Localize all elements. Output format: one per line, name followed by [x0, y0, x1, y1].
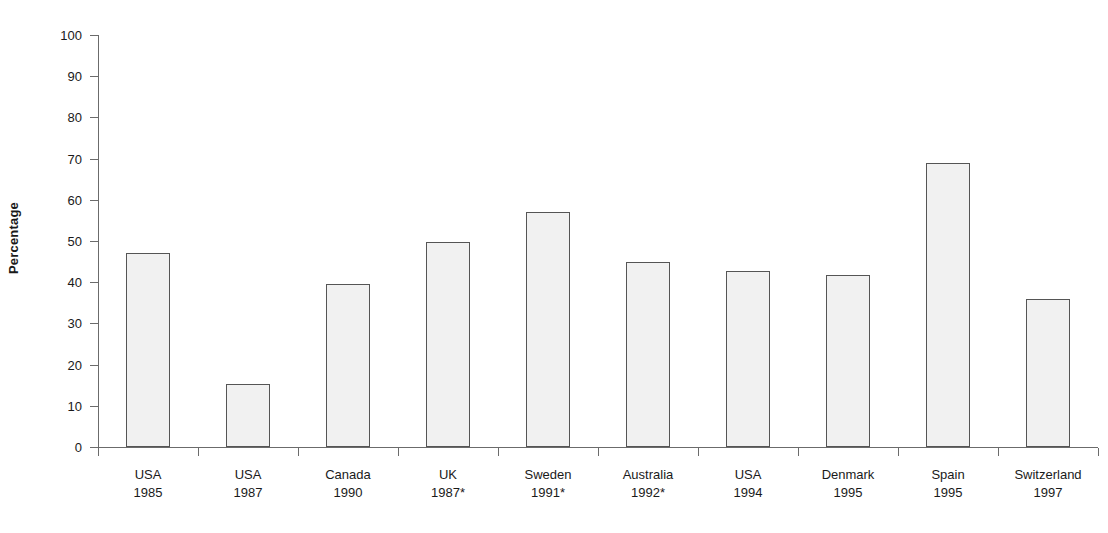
y-axis-tick — [90, 76, 98, 77]
y-axis-label: 40 — [36, 276, 82, 289]
y-axis-label: 100 — [36, 29, 82, 42]
x-axis-label-year: 1992* — [598, 484, 698, 502]
y-axis-tick — [90, 365, 98, 366]
x-axis-label-year: 1997 — [998, 484, 1098, 502]
x-axis-tick — [1098, 448, 1099, 456]
x-axis-label-year: 1985 — [98, 484, 198, 502]
x-axis-label: Denmark1995 — [798, 466, 898, 502]
y-axis-label: 70 — [36, 153, 82, 166]
x-axis-label: Australia1992* — [598, 466, 698, 502]
x-axis-tick — [598, 448, 599, 456]
y-axis-tick — [90, 117, 98, 118]
bar — [926, 163, 970, 447]
x-axis-label-country: Australia — [598, 466, 698, 484]
x-axis-tick — [798, 448, 799, 456]
x-axis-label-country: USA — [198, 466, 298, 484]
x-axis-label-year: 1991* — [498, 484, 598, 502]
x-axis-label-country: UK — [398, 466, 498, 484]
x-axis-label-year: 1994 — [698, 484, 798, 502]
y-axis-tick — [90, 447, 98, 448]
x-axis-label: Canada1990 — [298, 466, 398, 502]
x-axis-label-country: Denmark — [798, 466, 898, 484]
y-axis-label: 80 — [36, 111, 82, 124]
y-axis-tick — [90, 241, 98, 242]
x-axis-tick — [498, 448, 499, 456]
x-axis-label: Sweden1991* — [498, 466, 598, 502]
x-axis-tick — [698, 448, 699, 456]
bar — [426, 242, 470, 447]
bar — [226, 384, 270, 447]
bar — [726, 271, 770, 447]
x-axis-tick — [198, 448, 199, 456]
bar — [1026, 299, 1070, 447]
y-axis-label: 10 — [36, 400, 82, 413]
x-axis-tick — [98, 448, 99, 456]
x-axis-label-year: 1990 — [298, 484, 398, 502]
y-axis-label: 0 — [36, 441, 82, 454]
bar — [126, 253, 170, 447]
y-axis-label: 20 — [36, 359, 82, 372]
bar — [826, 275, 870, 447]
y-axis-label: 60 — [36, 194, 82, 207]
y-axis-label: 30 — [36, 317, 82, 330]
x-axis-label-year: 1995 — [798, 484, 898, 502]
x-axis-label: UK1987* — [398, 466, 498, 502]
x-axis-label-country: USA — [698, 466, 798, 484]
x-axis-label: Spain1995 — [898, 466, 998, 502]
y-axis-label: 50 — [36, 235, 82, 248]
x-axis-label: Switzerland1997 — [998, 466, 1098, 502]
y-axis-tick — [90, 200, 98, 201]
y-axis-tick — [90, 323, 98, 324]
x-axis-label-country: Spain — [898, 466, 998, 484]
x-axis-label-year: 1995 — [898, 484, 998, 502]
x-axis-tick — [998, 448, 999, 456]
x-axis-label: USA1985 — [98, 466, 198, 502]
x-axis-label: USA1994 — [698, 466, 798, 502]
bar — [326, 284, 370, 447]
y-axis-tick — [90, 406, 98, 407]
plot-area — [98, 35, 1098, 447]
x-axis-tick — [298, 448, 299, 456]
x-axis-label-country: USA — [98, 466, 198, 484]
y-axis-tick — [90, 35, 98, 36]
bar — [626, 262, 670, 447]
x-axis-label: USA1987 — [198, 466, 298, 502]
x-axis-label-year: 1987 — [198, 484, 298, 502]
y-axis-tick — [90, 159, 98, 160]
x-axis-label-country: Sweden — [498, 466, 598, 484]
x-axis-label-country: Switzerland — [998, 466, 1098, 484]
x-axis-label-year: 1987* — [398, 484, 498, 502]
x-axis-tick — [898, 448, 899, 456]
y-axis-tick — [90, 282, 98, 283]
bar — [526, 212, 570, 447]
x-axis-label-country: Canada — [298, 466, 398, 484]
bar-chart: Percentage 0102030405060708090100 USA198… — [0, 0, 1108, 533]
y-axis-title: Percentage — [6, 168, 21, 308]
y-axis-label: 90 — [36, 70, 82, 83]
x-axis-tick — [398, 448, 399, 456]
